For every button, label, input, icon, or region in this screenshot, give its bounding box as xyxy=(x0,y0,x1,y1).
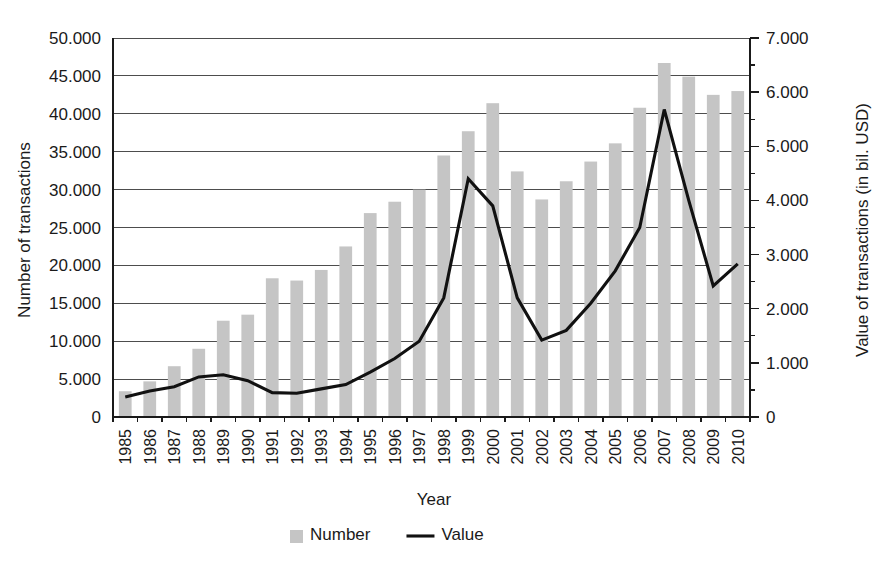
year-label-2006: 2006 xyxy=(632,429,649,465)
bar-1996 xyxy=(388,202,401,417)
bar-1990 xyxy=(241,315,254,417)
year-label-1998: 1998 xyxy=(436,429,453,465)
left-tick-label: 5.000 xyxy=(58,370,101,389)
bar-1988 xyxy=(192,349,205,417)
bar-1999 xyxy=(462,131,475,417)
left-tick-label: 40.000 xyxy=(49,105,101,124)
bar-1997 xyxy=(413,190,426,417)
left-tick-label: 30.000 xyxy=(49,181,101,200)
year-label-1997: 1997 xyxy=(411,429,428,465)
bar-1994 xyxy=(339,246,352,417)
bar-2005 xyxy=(609,143,622,417)
year-label-2002: 2002 xyxy=(534,429,551,465)
bar-2010 xyxy=(731,91,744,417)
legend-label-value: Value xyxy=(441,525,483,544)
bar-2003 xyxy=(560,181,573,417)
year-label-1994: 1994 xyxy=(338,429,355,465)
bar-2004 xyxy=(584,162,597,417)
left-tick-label: 15.000 xyxy=(49,294,101,313)
year-label-1992: 1992 xyxy=(289,429,306,465)
x-axis-title: Year xyxy=(417,490,452,509)
year-label-1995: 1995 xyxy=(362,429,379,465)
year-label-2009: 2009 xyxy=(705,429,722,465)
chart-container: 05.00010.00015.00020.00025.00030.00035.0… xyxy=(0,0,884,568)
right-tick-label: 1.000 xyxy=(766,354,809,373)
year-label-2000: 2000 xyxy=(485,429,502,465)
left-tick-label: 50.000 xyxy=(49,29,101,48)
bar-1992 xyxy=(290,281,303,417)
right-tick-label: 2.000 xyxy=(766,300,809,319)
year-label-1996: 1996 xyxy=(387,429,404,465)
left-tick-label: 20.000 xyxy=(49,256,101,275)
bar-1986 xyxy=(143,381,156,417)
year-label-1987: 1987 xyxy=(166,429,183,465)
bar-2000 xyxy=(486,103,499,417)
year-label-1985: 1985 xyxy=(117,429,134,465)
legend-swatch-number xyxy=(290,530,303,543)
right-tick-label: 0 xyxy=(766,408,775,427)
year-label-1990: 1990 xyxy=(240,429,257,465)
left-tick-label: 10.000 xyxy=(49,332,101,351)
bar-1993 xyxy=(315,270,328,417)
legend-label-number: Number xyxy=(310,525,371,544)
left-tick-label: 45.000 xyxy=(49,67,101,86)
bar-2008 xyxy=(682,77,695,417)
bar-2009 xyxy=(707,95,720,417)
year-label-2010: 2010 xyxy=(730,429,747,465)
bar-1987 xyxy=(168,366,181,417)
year-label-2001: 2001 xyxy=(509,429,526,465)
bar-2002 xyxy=(535,199,548,417)
year-label-1991: 1991 xyxy=(264,429,281,465)
year-label-2007: 2007 xyxy=(656,429,673,465)
year-label-1989: 1989 xyxy=(215,429,232,465)
year-label-1988: 1988 xyxy=(191,429,208,465)
year-label-2003: 2003 xyxy=(558,429,575,465)
year-label-1993: 1993 xyxy=(313,429,330,465)
left-tick-label: 25.000 xyxy=(49,219,101,238)
year-label-1986: 1986 xyxy=(142,429,159,465)
year-label-2008: 2008 xyxy=(681,429,698,465)
bar-2006 xyxy=(633,108,646,417)
bar-1995 xyxy=(364,213,377,417)
bar-1989 xyxy=(217,321,230,417)
year-label-2005: 2005 xyxy=(607,429,624,465)
right-tick-label: 7.000 xyxy=(766,29,809,48)
right-tick-label: 6.000 xyxy=(766,83,809,102)
right-tick-label: 5.000 xyxy=(766,137,809,156)
y2-axis-title: Value of transactions (in bil. USD) xyxy=(853,103,872,357)
bar-1998 xyxy=(437,155,450,417)
left-tick-label: 0 xyxy=(92,408,101,427)
left-tick-label: 35.000 xyxy=(49,143,101,162)
year-label-2004: 2004 xyxy=(583,429,600,465)
year-label-1999: 1999 xyxy=(460,429,477,465)
dual-axis-chart: 05.00010.00015.00020.00025.00030.00035.0… xyxy=(0,0,884,568)
bar-1991 xyxy=(266,278,279,417)
right-tick-label: 3.000 xyxy=(766,246,809,265)
right-tick-label: 4.000 xyxy=(766,191,809,210)
y-axis-title: Number of transactions xyxy=(15,142,34,318)
